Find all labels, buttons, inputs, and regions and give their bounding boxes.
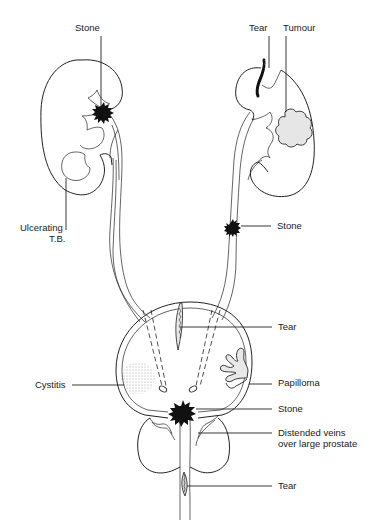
- label-urethra-tear: Tear: [278, 480, 296, 491]
- label-papilloma: Papilloma: [278, 377, 320, 388]
- urethra: [180, 420, 190, 520]
- right-kidney-tumour: [276, 109, 313, 147]
- label-bladder-tear: Tear: [278, 321, 296, 332]
- urinary-tract-diagram: [0, 0, 379, 532]
- bladder-stone: [168, 400, 196, 427]
- left-ureter: [110, 115, 150, 322]
- label-cystitis: Cystitis: [35, 379, 66, 390]
- papilloma: [220, 344, 248, 388]
- cystitis-area: [121, 362, 155, 394]
- urethra-tear: [182, 472, 187, 496]
- label-right-kidney-tumour: Tumour: [283, 22, 315, 33]
- left-kidney: [41, 60, 123, 195]
- bladder-tear: [176, 303, 183, 350]
- label-left-kidney-stone: Stone: [75, 22, 100, 33]
- right-kidney-tear: [257, 60, 266, 96]
- label-bladder-stone: Stone: [278, 403, 303, 414]
- label-ulcerating-tb-line1: Ulcerating: [20, 222, 63, 233]
- label-ureter-stone: Stone: [277, 220, 302, 231]
- label-ulcerating-tb-line2: T.B.: [49, 233, 65, 244]
- label-distended-veins-line2: over large prostate: [278, 438, 357, 449]
- ureter-stone: [224, 219, 241, 237]
- label-distended-veins-line1: Distended veins: [278, 427, 346, 438]
- label-right-kidney-tear: Tear: [249, 22, 267, 33]
- left-kidney-stone: [92, 102, 114, 124]
- right-ureter: [212, 112, 262, 320]
- prostate: [138, 416, 230, 473]
